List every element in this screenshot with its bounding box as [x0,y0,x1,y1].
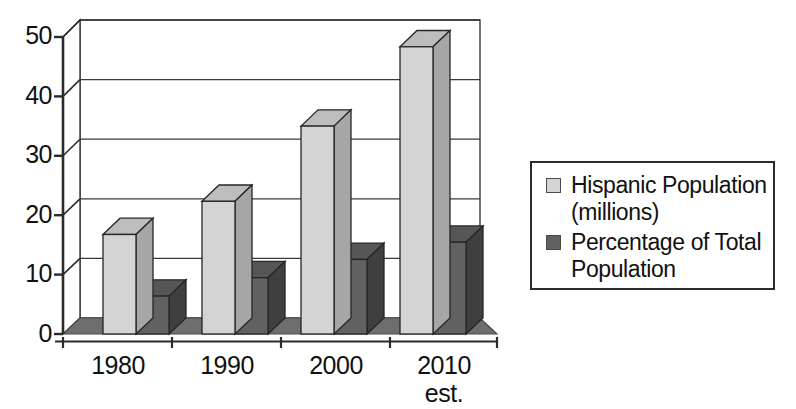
legend-item-percentage-of-total: Percentage of Total Population [546,229,772,283]
legend-swatch-dark-icon [546,235,561,250]
x-axis-label-1990: 1990 [167,352,287,379]
x-axis-label-2010: 2010 [384,352,504,379]
legend-label-percentage-of-total: Percentage of Total Population [571,229,761,283]
x-axis-tick-labels: 1980 1990 2000 2010 est. [0,0,510,409]
x-axis-label-2000: 2000 [276,352,396,379]
legend-label-hispanic-population: Hispanic Population (millions) [571,172,767,226]
x-axis-label-1980: 1980 [58,352,178,379]
x-axis-sublabel-2010-est: est. [384,380,504,407]
plot-area: 50 40 30 20 10 0 1980 1990 2000 2010 est… [0,0,510,409]
legend: Hispanic Population (millions) Percentag… [530,161,775,290]
legend-swatch-light-icon [546,178,561,193]
legend-item-hispanic-population: Hispanic Population (millions) [546,172,772,226]
hispanic-population-bar-chart: 50 40 30 20 10 0 1980 1990 2000 2010 est… [0,0,796,409]
